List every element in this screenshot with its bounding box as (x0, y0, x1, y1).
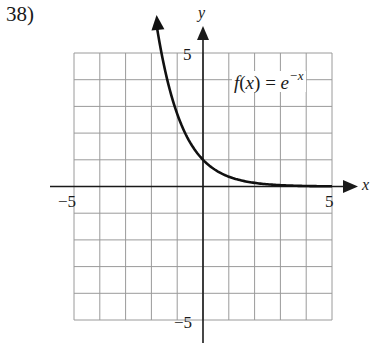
y-axis-label: y (198, 5, 205, 21)
function-base: e (281, 72, 289, 93)
y-axis-arrow-icon (197, 26, 209, 40)
y-tick-neg5: −5 (174, 314, 192, 331)
x-axis-arrow-icon (343, 180, 358, 193)
x-axis-label: x (362, 177, 369, 193)
y-tick-pos5: 5 (183, 46, 192, 63)
function-label: f(x) = e−x (232, 71, 306, 92)
function-curve (151, 15, 332, 186)
function-name: f (234, 72, 239, 93)
function-exponent: −x (289, 68, 304, 83)
axes (50, 26, 358, 343)
equals-sign: = (265, 72, 276, 93)
curve-extension (157, 25, 158, 30)
x-tick-neg5: −5 (58, 193, 76, 210)
x-tick-pos5: 5 (325, 193, 334, 210)
function-arg: x (246, 72, 254, 93)
